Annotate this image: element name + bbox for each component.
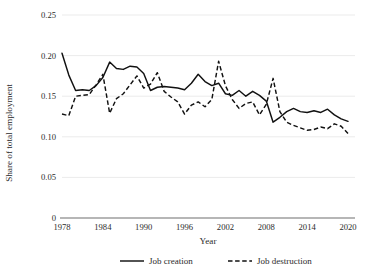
x-tick-label: 1990	[135, 222, 152, 232]
chart-figure: 00.050.100.150.200.25 197819841990199620…	[0, 0, 367, 275]
x-axis-title: Year	[200, 236, 217, 246]
x-tick-label: 2008	[258, 222, 275, 232]
y-axis-title: Share of total employment	[4, 84, 14, 182]
chart-legend: Job creationJob destruction	[120, 256, 312, 266]
x-tick-label: 1996	[176, 222, 194, 232]
y-tick-label: 0.20	[41, 51, 56, 61]
x-axis-tick-labels: 19781984199019962002200820142020	[53, 222, 356, 232]
x-tick-label: 2020	[339, 222, 356, 232]
y-tick-label: 0.15	[41, 91, 56, 101]
y-tick-label: 0.25	[41, 10, 56, 20]
y-tick-label: 0.05	[41, 172, 56, 182]
data-series-group	[62, 53, 348, 133]
x-tick-label: 2002	[217, 222, 234, 232]
legend-label: Job creation	[149, 256, 193, 266]
y-axis-tick-labels: 00.050.100.150.200.25	[41, 10, 56, 223]
x-tick-label: 2014	[299, 222, 317, 232]
x-tick-label: 1984	[94, 222, 112, 232]
y-tick-label: 0.10	[41, 132, 56, 142]
legend-label: Job destruction	[257, 256, 312, 266]
line-chart: 00.050.100.150.200.25 197819841990199620…	[0, 0, 367, 275]
x-tick-label: 1978	[53, 222, 70, 232]
gridlines	[62, 15, 355, 177]
